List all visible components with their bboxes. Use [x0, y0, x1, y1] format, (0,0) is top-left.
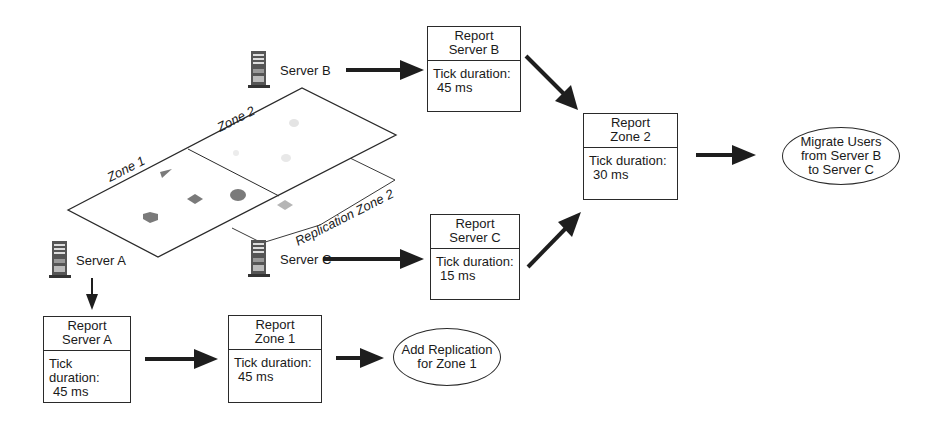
report-zone-1[interactable]: Report Zone 1 Tick duration: 45 ms: [228, 315, 322, 403]
metric-value: 15 ms: [436, 269, 515, 283]
server-a[interactable]: Server A: [49, 241, 126, 279]
faint-object: [233, 150, 239, 156]
arrow-zone2-to-migrate: [696, 145, 756, 165]
report-body: Tick duration: 45 ms: [229, 350, 321, 384]
report-body: Tick duration: 30 ms: [584, 148, 677, 182]
arrow-reportb-to-zone2: [526, 56, 578, 110]
server-tower-icon: [248, 240, 270, 278]
report-title-line1: Report: [46, 319, 128, 333]
report-title-line2: Server C: [433, 231, 517, 245]
replicated-diamond-object: [277, 200, 293, 210]
report-title-line1: Report: [430, 29, 518, 43]
action-line1: Migrate Users: [801, 135, 882, 149]
metric-value: 30 ms: [589, 168, 673, 182]
report-title-line2: Zone 1: [231, 332, 319, 346]
report-title: Report Zone 2: [584, 114, 677, 148]
report-title: Report Server B: [428, 27, 520, 61]
action-line1: Add Replication: [401, 343, 492, 357]
report-title-line1: Report: [586, 116, 675, 130]
metric-label: Tick duration:: [49, 357, 126, 385]
migrate-users-action[interactable]: Migrate Users from Server B to Server C: [782, 127, 900, 185]
metric-value: 45 ms: [433, 81, 516, 95]
report-title-line2: Server A: [46, 333, 128, 347]
arrow-reporta-to-zone1: [145, 349, 218, 369]
report-title: Report Server C: [431, 215, 519, 249]
metric-label: Tick duration:: [436, 255, 515, 269]
server-b-label: Server B: [280, 63, 331, 78]
metric-label: Tick duration:: [234, 356, 317, 370]
server-c-label: Server C: [280, 252, 331, 267]
report-server-c[interactable]: Report Server C Tick duration: 15 ms: [430, 214, 520, 300]
report-body: Tick duration: 45 ms: [428, 61, 520, 95]
report-zone-2[interactable]: Report Zone 2 Tick duration: 30 ms: [583, 113, 678, 200]
metric-label: Tick duration:: [433, 67, 516, 81]
report-server-b[interactable]: Report Server B Tick duration: 45 ms: [427, 26, 521, 112]
action-line2: from Server B: [801, 149, 881, 163]
report-body: Tick duration: 15 ms: [431, 249, 519, 283]
report-title-line1: Report: [231, 318, 319, 332]
server-tower-icon: [248, 51, 270, 89]
circle-object: [230, 189, 246, 201]
add-replication-action[interactable]: Add Replication for Zone 1: [393, 328, 501, 386]
report-title-line1: Report: [433, 217, 517, 231]
action-line3: to Server C: [808, 163, 874, 177]
server-a-label: Server A: [76, 253, 126, 268]
arrow-reportc-to-zone2: [528, 212, 581, 267]
report-title-line2: Zone 2: [586, 130, 675, 144]
faint-object: [289, 119, 299, 127]
arrow-servera-to-report: [86, 278, 98, 310]
arrow-zone1-to-replication: [336, 348, 384, 368]
arrow-serverc-to-report: [323, 249, 424, 269]
report-body: Tick duration: 45 ms: [44, 351, 130, 399]
faint-object: [281, 154, 291, 162]
server-b[interactable]: Server B: [248, 51, 331, 89]
server-tower-icon: [49, 241, 71, 279]
action-line2: for Zone 1: [417, 357, 476, 371]
arrow-serverb-to-report: [346, 60, 424, 80]
report-title: Report Zone 1: [229, 316, 321, 350]
report-title: Report Server A: [44, 317, 130, 351]
metric-label: Tick duration:: [589, 154, 673, 168]
diagram-canvas: Zone 1 Zone 2 Replication Zone 2: [0, 0, 936, 427]
metric-value: 45 ms: [49, 385, 126, 399]
metric-value: 45 ms: [234, 370, 317, 384]
report-title-line2: Server B: [430, 43, 518, 57]
report-server-a[interactable]: Report Server A Tick duration: 45 ms: [43, 316, 131, 403]
server-c[interactable]: Server C: [248, 240, 331, 278]
